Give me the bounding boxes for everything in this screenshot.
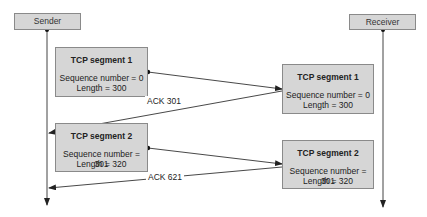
segment-1-received-box: TCP segment 1 Sequence number = 0 Length… [282, 64, 374, 114]
segment-2-sent-box: TCP segment 2 Sequence number = 301 Leng… [55, 123, 148, 172]
segment-2-arrow [148, 148, 282, 164]
segment-title: TCP segment 2 [56, 131, 147, 142]
segment-title: TCP segment 1 [283, 72, 373, 83]
segment-length: Length = 300 [56, 83, 147, 93]
sender-box: Sender [14, 13, 81, 30]
receiver-box: Receiver [349, 14, 416, 30]
receiver-label: Receiver [366, 17, 400, 27]
segment-length: Length = 320 [56, 159, 147, 169]
segment-1-sent-box: TCP segment 1 Sequence number = 0 Length… [55, 47, 148, 97]
ack-621-label: ACK 621 [146, 172, 184, 182]
sequence-number: Sequence number = 301 [283, 166, 373, 176]
sender-label: Sender [34, 16, 61, 26]
segment-title: TCP segment 2 [283, 148, 373, 159]
ack-301-label: ACK 301 [145, 96, 183, 106]
segment-2-received-box: TCP segment 2 Sequence number = 301 Leng… [282, 140, 374, 189]
segment-length: Length = 300 [283, 100, 373, 110]
segment-title: TCP segment 1 [56, 55, 147, 66]
sequence-number: Sequence number = 301 [56, 149, 147, 159]
sequence-number: Sequence number = 0 [56, 73, 147, 83]
segment-length: Length = 320 [283, 176, 373, 186]
sequence-number: Sequence number = 0 [283, 90, 373, 100]
segment-1-arrow [148, 72, 282, 89]
